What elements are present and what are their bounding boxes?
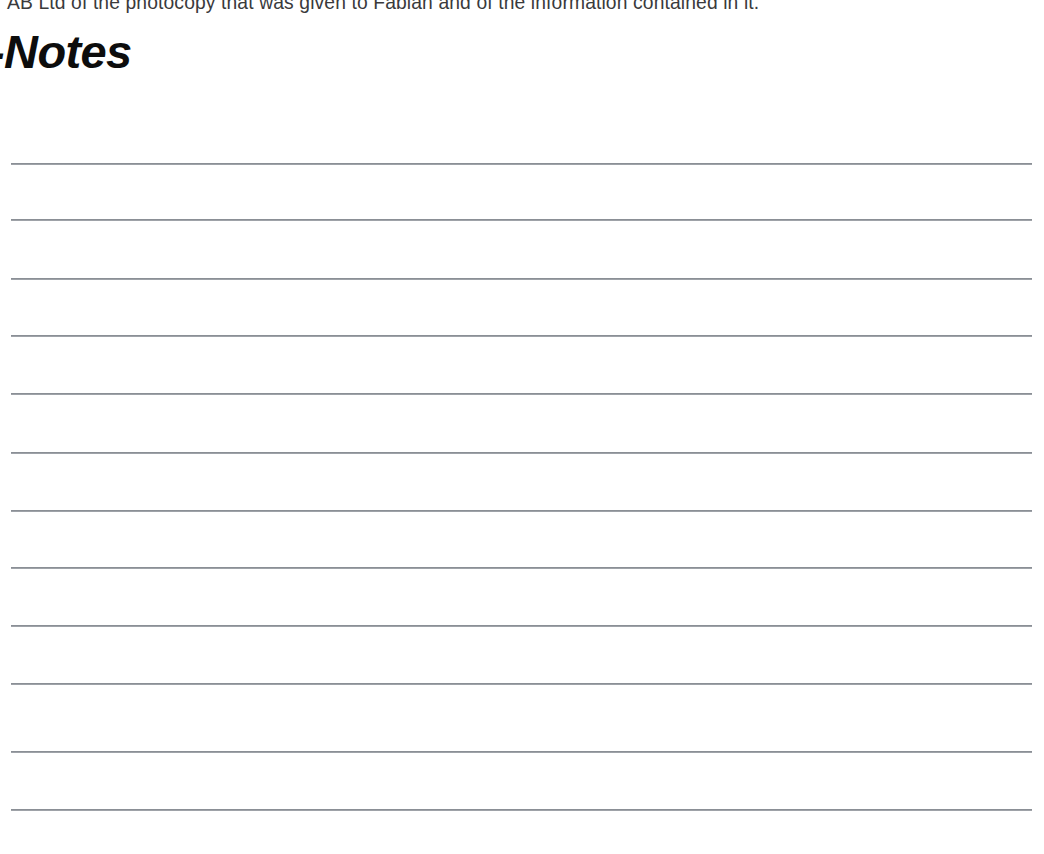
- notes-page: AB Ltd of the photocopy that was given t…: [0, 0, 1044, 854]
- notes-ruled-area[interactable]: [0, 0, 1044, 854]
- note-line[interactable]: [11, 751, 1032, 753]
- note-line[interactable]: [11, 452, 1032, 454]
- note-line[interactable]: [11, 510, 1032, 512]
- note-line[interactable]: [11, 278, 1032, 280]
- note-line[interactable]: [11, 809, 1032, 811]
- note-line[interactable]: [11, 393, 1032, 395]
- note-line[interactable]: [11, 567, 1032, 569]
- note-line[interactable]: [11, 625, 1032, 627]
- note-line[interactable]: [11, 335, 1032, 337]
- note-line[interactable]: [11, 163, 1032, 165]
- note-line[interactable]: [11, 683, 1032, 685]
- note-line[interactable]: [11, 219, 1032, 221]
